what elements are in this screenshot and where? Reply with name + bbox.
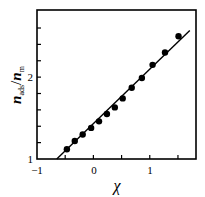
y-title-n: n xyxy=(8,96,24,104)
y-title-sub-ads: ads xyxy=(17,85,26,96)
x-tick-label: 1 xyxy=(147,164,153,176)
plot-area xyxy=(57,30,190,159)
y-axis-title: nads/nm xyxy=(8,65,26,104)
fit-line xyxy=(57,30,190,159)
y-tick-label: 1 xyxy=(28,153,34,165)
y-title-n2: n xyxy=(8,72,24,80)
axis-ticks xyxy=(37,28,178,159)
y-title-sub-m: m xyxy=(17,65,26,72)
x-tick-label: −1 xyxy=(31,164,43,176)
chart: −1 0 1 1 2 χ nads/nm xyxy=(0,0,205,197)
svg-text:nads/nm: nads/nm xyxy=(8,65,26,104)
y-tick-label: 2 xyxy=(28,71,34,83)
data-point xyxy=(139,75,145,81)
plot-frame xyxy=(37,10,196,159)
x-tick-label: 0 xyxy=(91,164,97,176)
x-axis-title: χ xyxy=(111,177,121,195)
